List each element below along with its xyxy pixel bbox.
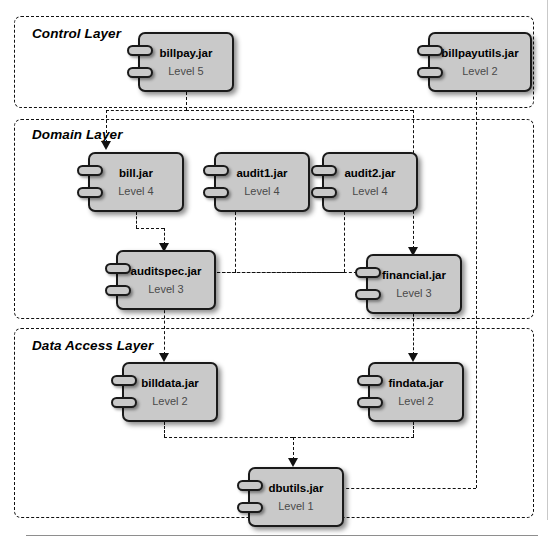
component-port-icon xyxy=(111,397,137,408)
component-port-icon xyxy=(203,165,229,176)
component-port-icon xyxy=(237,480,263,491)
connector-billpayutils-dbutils-v xyxy=(476,92,477,488)
component-level: Level 3 xyxy=(396,287,431,299)
component-audit1[interactable]: audit1.jar Level 4 xyxy=(214,152,310,212)
component-port-icon xyxy=(77,187,103,198)
component-port-icon xyxy=(417,45,443,56)
component-findata[interactable]: findata.jar Level 2 xyxy=(368,362,464,422)
connector-bill-auditspec-h xyxy=(136,228,164,229)
connector-billdata-dbutils-v2 xyxy=(293,437,294,460)
component-name: audit1.jar xyxy=(236,167,287,180)
component-level: Level 4 xyxy=(352,185,387,197)
connector-financial-findata-v xyxy=(413,309,414,355)
component-billpay[interactable]: billpay.jar Level 5 xyxy=(138,32,234,92)
arrowhead-financial-findata xyxy=(408,353,418,362)
arrowhead-billdata-dbutils xyxy=(288,458,298,467)
connector-billpay-financial-h xyxy=(186,110,413,111)
component-port-icon xyxy=(357,375,383,386)
component-port-icon xyxy=(105,263,131,274)
connector-billdata-dbutils-h xyxy=(164,437,293,438)
component-billpayutils[interactable]: billpayutils.jar Level 2 xyxy=(428,32,532,92)
component-name: billdata.jar xyxy=(141,377,199,390)
component-name: billpay.jar xyxy=(160,47,213,60)
component-port-icon xyxy=(417,67,443,78)
connector-financial-auditspec-h xyxy=(212,272,362,273)
component-port-icon xyxy=(127,67,153,78)
connector-audit1-auditspec-v xyxy=(235,212,236,272)
component-port-icon xyxy=(127,45,153,56)
component-port-icon xyxy=(111,375,137,386)
arrowhead-billpay-bill xyxy=(101,141,111,150)
component-port-icon xyxy=(237,502,263,513)
component-port-icon xyxy=(311,187,337,198)
component-level: Level 2 xyxy=(462,65,497,77)
arrowhead-auditspec-billdata xyxy=(159,353,169,362)
component-level: Level 5 xyxy=(168,65,203,77)
component-port-icon xyxy=(355,289,381,300)
connector-audit2-financial-v xyxy=(344,212,345,272)
component-name: dbutils.jar xyxy=(269,482,324,495)
component-level: Level 4 xyxy=(244,185,279,197)
component-audit2[interactable]: audit2.jar Level 4 xyxy=(322,152,418,212)
component-auditspec[interactable]: auditspec.jar Level 3 xyxy=(116,250,216,310)
connector-billpay-bill-v2 xyxy=(106,110,107,143)
component-port-icon xyxy=(203,187,229,198)
connector-billpay-bill-h xyxy=(106,110,187,111)
connector-findata-dbutils-v xyxy=(413,422,414,437)
component-name: audit2.jar xyxy=(344,167,395,180)
component-financial[interactable]: financial.jar Level 3 xyxy=(366,254,462,314)
connector-auditspec-billdata-v xyxy=(164,305,165,355)
component-dbutils[interactable]: dbutils.jar Level 1 xyxy=(248,467,344,527)
connector-findata-dbutils-h xyxy=(293,437,414,438)
diagram-canvas: Control Layer Domain Layer Data Access L… xyxy=(0,0,548,546)
component-level: Level 4 xyxy=(118,185,153,197)
component-port-icon xyxy=(355,267,381,278)
connector-billpayutils-dbutils-h xyxy=(336,488,476,489)
component-level: Level 3 xyxy=(148,283,183,295)
component-port-icon xyxy=(311,165,337,176)
component-port-icon xyxy=(77,165,103,176)
component-level: Level 2 xyxy=(398,395,433,407)
connector-billdata-dbutils-v1 xyxy=(164,422,165,437)
component-port-icon xyxy=(105,285,131,296)
connector-billpay-bill-v1 xyxy=(186,92,187,110)
component-name: bill.jar xyxy=(119,167,153,180)
component-name: billpayutils.jar xyxy=(441,47,518,60)
component-level: Level 1 xyxy=(278,500,313,512)
footer-rule xyxy=(26,535,538,536)
component-name: auditspec.jar xyxy=(131,265,202,278)
component-name: findata.jar xyxy=(389,377,444,390)
component-name: financial.jar xyxy=(382,269,446,282)
component-billdata[interactable]: billdata.jar Level 2 xyxy=(122,362,218,422)
component-port-icon xyxy=(357,397,383,408)
connector-bill-auditspec-v1 xyxy=(136,212,137,228)
component-level: Level 2 xyxy=(152,395,187,407)
component-bill[interactable]: bill.jar Level 4 xyxy=(88,152,184,212)
